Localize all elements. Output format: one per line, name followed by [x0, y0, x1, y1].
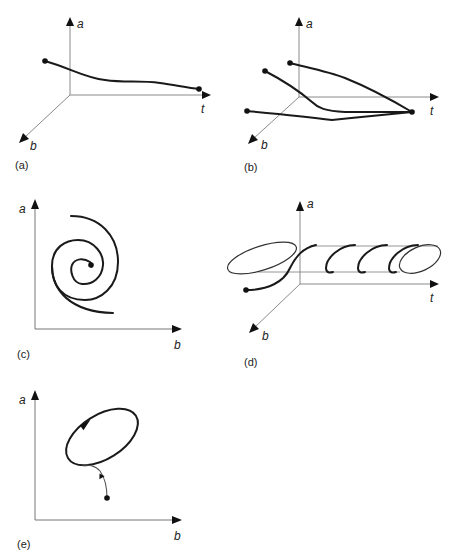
- limit-cycle: [56, 397, 147, 477]
- axis-label-b: b: [261, 138, 268, 152]
- spiral-outer-tail: [52, 266, 113, 313]
- t-axis-arrow-icon: [430, 93, 439, 101]
- panel-label-e: (e): [17, 538, 30, 550]
- helix-arc-1: [326, 245, 355, 273]
- a-axis-arrow-icon: [66, 17, 74, 26]
- approach-trajectory: [246, 245, 316, 290]
- orbit-ellipse-first: [224, 235, 300, 280]
- a-axis-arrow-icon: [296, 201, 304, 211]
- a-axis-arrow-icon: [31, 390, 39, 400]
- trajectory-curve-1: [290, 63, 412, 112]
- helix-arc-2: [358, 245, 387, 273]
- approach-trajectory: [82, 465, 107, 498]
- panel-label-c: (c): [17, 348, 30, 360]
- axis-label-t: t: [201, 102, 205, 116]
- initial-point-3: [244, 108, 250, 114]
- b-axis-arrow-icon: [172, 516, 182, 524]
- panel-a: a t b (a): [15, 17, 211, 171]
- orbit-ellipse-last: [395, 239, 445, 279]
- fixed-point: [409, 109, 415, 115]
- b-axis-arrow-icon: [172, 325, 182, 333]
- axis-label-b: b: [174, 338, 181, 352]
- panel-b: a t b (b): [244, 17, 439, 173]
- initial-point: [104, 495, 110, 501]
- initial-point-2: [262, 68, 268, 74]
- b-axis: [253, 97, 299, 139]
- axis-label-a: a: [19, 202, 26, 216]
- axis-label-b: b: [30, 139, 37, 153]
- axis-label-a: a: [307, 197, 314, 211]
- a-axis-arrow-icon: [295, 17, 303, 26]
- panel-c: a b (c): [17, 199, 182, 360]
- axis-label-t: t: [430, 291, 434, 305]
- b-axis: [24, 95, 70, 138]
- axis-label-a: a: [77, 17, 84, 31]
- trajectory-curve: [45, 61, 199, 89]
- t-axis-arrow-icon: [430, 280, 439, 288]
- figure: a t b (a) a t b (b) a b: [0, 0, 454, 558]
- initial-point: [42, 58, 48, 64]
- fixed-point: [196, 86, 202, 92]
- initial-point-1: [287, 60, 293, 66]
- spiral-trajectory: [52, 216, 118, 300]
- axis-label-a: a: [306, 17, 313, 31]
- axis-label-b: b: [174, 529, 181, 543]
- axis-label-a: a: [19, 393, 26, 407]
- axis-label-t: t: [430, 104, 434, 118]
- panel-d: a t b (d): [224, 197, 445, 368]
- panel-label-d: (d): [244, 356, 257, 368]
- panel-label-b: (b): [244, 161, 257, 173]
- trajectory-curve-2: [265, 71, 412, 112]
- initial-point: [243, 287, 249, 293]
- a-axis-arrow-icon: [31, 199, 39, 209]
- stable-focus-point: [88, 262, 94, 268]
- panel-label-a: (a): [15, 159, 28, 171]
- axis-label-b: b: [262, 329, 269, 343]
- b-axis: [254, 284, 300, 328]
- t-axis-arrow-icon: [202, 91, 211, 99]
- panel-e: a b (e): [17, 390, 182, 550]
